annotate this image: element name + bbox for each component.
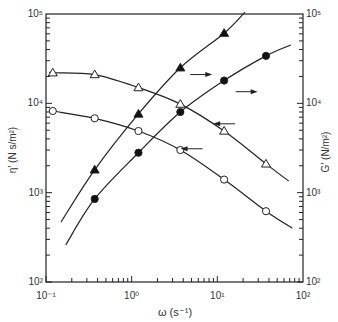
open-circle-marker [262,208,269,215]
open-triangle-marker [176,100,185,108]
y-tick-label-right: 10³ [306,187,321,198]
x-tick-label: 10² [296,290,311,301]
filled-circle-marker [135,149,142,156]
open-circle-marker [49,107,56,114]
y-tick-label-left: 10⁵ [28,8,43,19]
tick-labels: 10⁻¹10⁰10¹10²10²10³10⁴10⁵10²10³10⁴10⁵ [28,8,322,301]
filled-circle-marker [177,108,184,115]
y-tick-label-right: 10⁴ [306,97,321,108]
x-tick-label: 10⁻¹ [36,290,56,301]
open-circle-marker [135,127,142,134]
open-circle-marker [177,146,184,153]
open-circle-marker [91,115,98,122]
filled-circle-marker [262,52,269,59]
series-curve [50,72,289,181]
y-tick-label-right: 10⁵ [306,8,321,19]
arrowhead-right-icon [205,72,212,77]
x-tick-label: 10¹ [210,290,225,301]
y-axis-label-left: η′ (N s/m²) [7,127,18,173]
rheology-chart: 10⁻¹10⁰10¹10²10²10³10⁴10⁵10²10³10⁴10⁵ ω … [0,0,338,322]
filled-circle-marker [221,77,228,84]
data-curves [50,12,293,245]
open-triangle-marker [262,159,271,167]
arrowhead-right-icon [251,89,258,94]
x-axis-label: ω (s⁻¹) [158,306,192,318]
data-markers [48,29,270,215]
y-tick-label-left: 10² [29,276,44,287]
y-tick-label-left: 10³ [29,187,44,198]
filled-circle-marker [91,195,98,202]
x-tick-label: 10⁰ [124,290,139,301]
open-circle-marker [221,176,228,183]
y-tick-label-right: 10² [306,276,321,287]
open-triangle-marker [220,127,229,135]
y-tick-label-left: 10⁴ [28,97,43,108]
y-axis-label-right: G′ (N/m²) [320,132,331,173]
